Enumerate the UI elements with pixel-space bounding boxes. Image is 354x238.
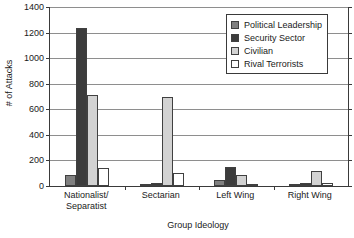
bar xyxy=(173,173,184,186)
bar-group xyxy=(125,7,200,186)
bar xyxy=(300,183,311,186)
bar xyxy=(311,171,322,186)
bar xyxy=(162,97,173,187)
bar-chart: # of Attacks 0200400600800100012001400 N… xyxy=(0,0,354,238)
chart-legend: Political LeadershipSecurity SectorCivil… xyxy=(226,14,328,74)
y-axis-tick-label: 200 xyxy=(14,155,48,165)
legend-item: Civilian xyxy=(231,44,322,57)
y-axis-tick-label: 1200 xyxy=(14,28,48,38)
x-axis-category-label-line: Separatist xyxy=(34,201,139,212)
axis-tick-mark xyxy=(348,84,352,85)
legend-label: Civilian xyxy=(244,46,273,56)
legend-swatch-icon xyxy=(231,47,239,55)
bar xyxy=(225,167,236,186)
legend-label: Political Leadership xyxy=(244,20,322,30)
legend-label: Rival Terrorists xyxy=(244,59,303,69)
legend-swatch-icon xyxy=(231,21,239,29)
bar xyxy=(214,180,225,186)
bar xyxy=(289,184,300,186)
bar xyxy=(140,184,151,186)
x-axis-title: Group Ideology xyxy=(49,220,347,230)
axis-tick-mark xyxy=(348,58,352,59)
legend-swatch-icon xyxy=(231,60,239,68)
legend-item: Political Leadership xyxy=(231,18,322,31)
bar xyxy=(236,175,247,187)
legend-label: Security Sector xyxy=(244,33,305,43)
bar xyxy=(76,28,87,186)
axis-tick-mark xyxy=(348,109,352,110)
x-axis-category-label: Right Wing xyxy=(258,190,354,201)
axis-tick-mark xyxy=(348,160,352,161)
y-axis-tick-label: 800 xyxy=(14,79,48,89)
bar xyxy=(65,175,76,186)
axis-tick-mark xyxy=(348,186,352,187)
axis-tick-mark xyxy=(348,7,352,8)
bar xyxy=(87,95,98,186)
legend-item: Rival Terrorists xyxy=(231,57,322,70)
axis-tick-mark xyxy=(46,186,50,187)
bar xyxy=(247,184,258,186)
legend-item: Security Sector xyxy=(231,31,322,44)
legend-swatch-icon xyxy=(231,34,239,42)
axis-tick-mark xyxy=(348,135,352,136)
y-axis-tick-label: 1400 xyxy=(14,2,48,12)
bar xyxy=(151,183,162,186)
bar xyxy=(322,183,333,186)
bar-group xyxy=(50,7,125,186)
y-axis-tick-label: 600 xyxy=(14,104,48,114)
y-axis-tick-label: 1000 xyxy=(14,53,48,63)
y-axis-title: # of Attacks xyxy=(4,47,14,119)
axis-tick-mark xyxy=(348,33,352,34)
bar xyxy=(98,168,109,186)
y-axis-tick-label: 400 xyxy=(14,130,48,140)
x-axis-category-label-line: Right Wing xyxy=(258,190,354,201)
